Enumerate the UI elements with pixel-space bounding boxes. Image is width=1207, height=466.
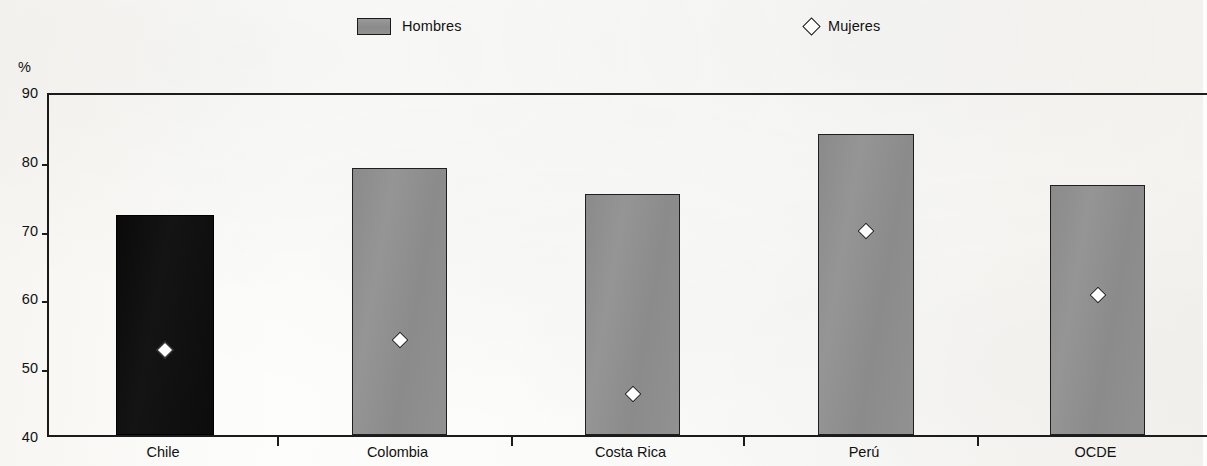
x-axis-label-colombia: Colombia (367, 445, 428, 460)
bar-ocde (1050, 185, 1145, 435)
chart-legend: Hombres Mujeres (0, 0, 1203, 48)
legend-label-mujeres: Mujeres (828, 19, 880, 34)
x-axis-tick-mark (977, 437, 979, 446)
x-axis-label-ocde: OCDE (1075, 445, 1117, 460)
y-axis-tick-label: 70 (6, 224, 38, 239)
bar-peru (818, 134, 914, 435)
x-axis-label-chile: Chile (146, 445, 179, 460)
x-axis-label-costa-rica: Costa Rica (595, 445, 666, 460)
y-axis-tick-mark (42, 233, 49, 235)
plot-area (47, 93, 1207, 437)
x-axis-tick-mark (743, 437, 745, 446)
legend-item-hombres: Hombres (357, 16, 462, 36)
y-axis-tick-mark (42, 164, 49, 166)
bar-colombia (352, 168, 447, 435)
y-axis-tick-label: 80 (6, 155, 38, 170)
bar-chile (116, 215, 214, 435)
x-axis-label-peru: Perú (849, 445, 880, 460)
y-axis-tick-label: 40 (6, 430, 38, 445)
legend-item-mujeres: Mujeres (805, 16, 880, 36)
y-axis-tick-label: 90 (6, 86, 38, 101)
y-axis-tick-mark (42, 370, 49, 372)
x-axis-tick-mark (511, 437, 513, 446)
x-axis-tick-mark (277, 437, 279, 446)
y-axis-tick-label: 60 (6, 292, 38, 307)
y-axis-unit-label: % (18, 60, 31, 75)
y-axis-tick-mark (42, 301, 49, 303)
y-axis-tick-label: 50 (6, 361, 38, 376)
legend-swatch-icon (357, 18, 391, 35)
legend-label-hombres: Hombres (402, 19, 462, 34)
legend-diamond-icon (802, 17, 820, 35)
